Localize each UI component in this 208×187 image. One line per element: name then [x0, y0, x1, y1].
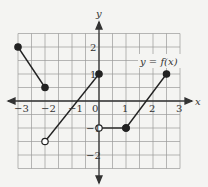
closed-dot — [163, 71, 169, 77]
x-tick-label: 2 — [149, 103, 155, 114]
closed-dot — [42, 84, 48, 90]
y-tick-label: −2 — [86, 150, 101, 161]
x-tick-label: 1 — [122, 103, 128, 114]
function-label: y = f(x) — [139, 56, 178, 67]
open-dot — [42, 138, 48, 144]
y-tick-label: −1 — [86, 123, 101, 134]
x-tick-label: −2 — [41, 103, 56, 114]
y-tick-label: 1 — [90, 69, 96, 80]
y-axis-up-arrow-icon — [96, 22, 102, 29]
closed-dot — [123, 125, 129, 131]
y-axis-label: y — [95, 8, 102, 19]
closed-dot — [15, 44, 21, 50]
x-tick-label: −3 — [14, 103, 29, 114]
x-tick-label: 3 — [176, 103, 182, 114]
function-graph: −3−2−1012321−1−2 x y y = f(x) — [0, 0, 208, 187]
x-tick-label: 0 — [92, 103, 98, 114]
closed-dot — [96, 71, 102, 77]
y-tick-label: 2 — [90, 42, 96, 53]
y-axis-down-arrow-icon — [96, 176, 102, 183]
x-tick-label: −1 — [68, 103, 83, 114]
x-axis-label: x — [195, 96, 201, 107]
x-axis-right-arrow-icon — [185, 98, 192, 104]
